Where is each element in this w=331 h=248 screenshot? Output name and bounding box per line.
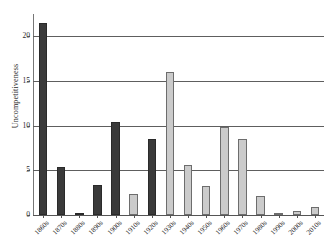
- x-axis-labels: 1860s1870s1880s1890s1900s1910s1920s1930s…: [34, 216, 324, 248]
- bar-1930s: [166, 72, 174, 215]
- x-axis-tick-mark: [170, 216, 171, 218]
- bar-1950s: [202, 186, 210, 215]
- x-axis-tick-label: 2010s: [301, 219, 322, 240]
- bar-chart: Uncompetitiveness 05101520 1860s1870s188…: [0, 0, 331, 248]
- x-axis-tick-label: 1960s: [211, 219, 232, 240]
- x-axis-tick-mark: [261, 216, 262, 218]
- bar-1970s: [238, 139, 246, 215]
- x-axis-tick-label: 1930s: [156, 219, 177, 240]
- x-axis-tick-label: 1920s: [138, 219, 159, 240]
- x-axis-tick-mark: [224, 216, 225, 218]
- bar-1900s: [111, 122, 119, 215]
- x-axis-tick-label: 1890s: [84, 219, 105, 240]
- bar-1890s: [93, 185, 101, 215]
- bar-2000s: [293, 211, 301, 215]
- y-axis-tick-mark: [27, 81, 30, 82]
- bar-1990s: [274, 213, 282, 215]
- y-axis-tick-mark: [27, 126, 30, 127]
- bar-1860s: [39, 23, 47, 215]
- x-axis-tick-mark: [43, 216, 44, 218]
- x-axis-tick-mark: [134, 216, 135, 218]
- x-axis-tick-mark: [279, 216, 280, 218]
- x-axis-tick-label: 1940s: [175, 219, 196, 240]
- y-axis-tick-mark: [27, 36, 30, 37]
- y-axis-tick-labels: 05101520: [8, 14, 30, 216]
- x-axis-tick-mark: [116, 216, 117, 218]
- x-axis-tick-label: 1950s: [193, 219, 214, 240]
- x-axis-tick-label: 1870s: [48, 219, 69, 240]
- x-axis-tick-label: 1980s: [247, 219, 268, 240]
- x-axis-tick-mark: [242, 216, 243, 218]
- bar-1960s: [220, 127, 228, 215]
- bar-1980s: [256, 196, 264, 215]
- x-axis-tick-mark: [152, 216, 153, 218]
- x-axis-tick-mark: [61, 216, 62, 218]
- x-axis-tick-label: 1970s: [229, 219, 250, 240]
- x-axis-tick-label: 1880s: [66, 219, 87, 240]
- bar-2010s: [311, 207, 319, 215]
- x-axis-tick-mark: [97, 216, 98, 218]
- bar-1910s: [129, 194, 137, 215]
- x-axis-tick-label: 1860s: [30, 219, 51, 240]
- x-axis-tick-label: 1990s: [265, 219, 286, 240]
- bars-container: [34, 14, 324, 216]
- x-axis-tick-label: 1900s: [102, 219, 123, 240]
- bar-1870s: [57, 167, 65, 215]
- bar-1940s: [184, 165, 192, 215]
- y-axis-tick-mark: [27, 215, 30, 216]
- y-axis-tick-mark: [27, 170, 30, 171]
- x-axis-tick-mark: [188, 216, 189, 218]
- x-axis-tick-label: 2000s: [283, 219, 304, 240]
- x-axis-tick-label: 1910s: [120, 219, 141, 240]
- bar-1880s: [75, 213, 83, 215]
- x-axis-tick-mark: [315, 216, 316, 218]
- x-axis-tick-mark: [206, 216, 207, 218]
- x-axis-tick-mark: [79, 216, 80, 218]
- bar-1920s: [148, 139, 156, 215]
- x-axis-tick-mark: [297, 216, 298, 218]
